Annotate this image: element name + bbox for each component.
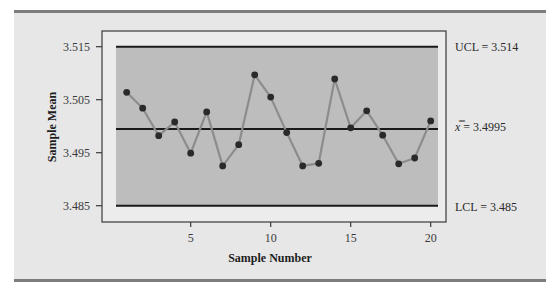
y-axis: 3.4853.4953.5053.515 <box>63 40 102 213</box>
lcl-label: LCL = 3.485 <box>455 200 517 214</box>
data-point-marker <box>283 129 290 136</box>
data-point-marker <box>363 107 370 114</box>
data-point-marker <box>315 160 322 167</box>
data-point-marker <box>219 163 226 170</box>
data-point-marker <box>187 150 194 157</box>
x-tick-label: 10 <box>265 231 277 245</box>
data-point-marker <box>411 155 418 162</box>
data-point-marker <box>155 132 162 139</box>
data-point-marker <box>251 71 258 78</box>
x-axis: 5101520 <box>188 222 437 245</box>
y-tick-label: 3.485 <box>63 199 90 213</box>
data-point-marker <box>427 118 434 125</box>
data-point-marker <box>123 89 130 96</box>
x-tick-label: 15 <box>345 231 357 245</box>
data-point-marker <box>171 119 178 126</box>
data-point-marker <box>235 141 242 148</box>
control-chart: 3.4853.4953.5053.515 5101520 Sample Mean… <box>0 0 558 295</box>
data-point-marker <box>395 160 402 167</box>
data-point-marker <box>139 105 146 112</box>
x-tick-label: 20 <box>425 231 437 245</box>
data-point-marker <box>347 124 354 131</box>
y-tick-label: 3.505 <box>63 93 90 107</box>
data-point-marker <box>299 163 306 170</box>
data-point-marker <box>203 109 210 116</box>
y-tick-label: 3.495 <box>63 146 90 160</box>
center-label: x̿ = 3.4995 <box>454 120 506 134</box>
y-axis-title: Sample Mean <box>45 92 59 163</box>
x-tick-label: 5 <box>188 231 194 245</box>
x-axis-title: Sample Number <box>228 251 312 265</box>
y-tick-label: 3.515 <box>63 40 90 54</box>
data-point-marker <box>379 132 386 139</box>
control-band-shading <box>116 47 438 206</box>
center-value: = 3.4995 <box>460 120 506 134</box>
ucl-label: UCL = 3.514 <box>455 40 518 54</box>
data-point-marker <box>267 94 274 101</box>
data-point-marker <box>331 76 338 83</box>
